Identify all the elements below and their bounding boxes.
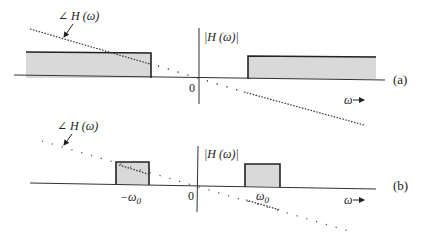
- omega-axis-label: ω: [344, 193, 352, 207]
- neg-omega0-text: −ω: [120, 190, 137, 204]
- origin-label: 0: [189, 81, 195, 95]
- pos-omega0-label: ω0: [256, 189, 269, 205]
- magnitude-axis: [197, 146, 198, 212]
- phase-label: ∠ H (ω): [58, 9, 99, 23]
- phase-label-arrow: [64, 24, 73, 37]
- neg-omega0-label: −ω0: [120, 190, 142, 206]
- phase-label: ∠ H (ω): [57, 119, 98, 133]
- magnitude-label: |H (ω)|: [204, 147, 239, 161]
- magnitude-band-right: [248, 56, 376, 79]
- origin-label: 0: [188, 189, 194, 203]
- panel-tag-b: (b): [393, 178, 408, 193]
- panel-b: ∠ H (ω) |H (ω)| −ω0 0 ω0 ω (b): [30, 119, 408, 232]
- frequency-axis: [30, 183, 376, 189]
- neg-omega0-subscript: 0: [137, 196, 142, 206]
- pos-omega0-text: ω: [256, 189, 264, 203]
- magnitude-label: |H (ω)|: [204, 30, 239, 44]
- panel-a: ∠ H (ω) |H (ω)| 0 ω (a): [14, 9, 407, 125]
- pos-omega0-subscript: 0: [264, 195, 269, 205]
- filter-diagram: ∠ H (ω) |H (ω)| 0 ω (a) ∠ H (ω) |H (ω)|: [0, 0, 423, 233]
- omega-axis-label: ω: [344, 93, 352, 107]
- magnitude-band-positive: [245, 164, 280, 186]
- phase-curve-center: [158, 66, 244, 92]
- panel-tag-a: (a): [393, 72, 407, 87]
- magnitude-band-left: [26, 52, 151, 78]
- magnitude-band-negative: [116, 162, 149, 184]
- phase-label-arrow: [64, 134, 72, 145]
